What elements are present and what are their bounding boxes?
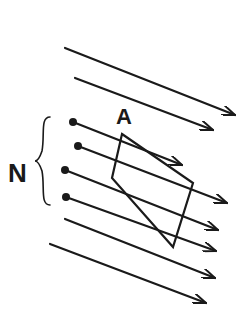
area-label: A [116,106,132,128]
line-origin-dot [62,193,70,201]
field-line-arrow [65,170,218,230]
line-origin-dot [74,142,82,150]
line-origin-dot [61,166,69,174]
field-line-arrow [66,197,216,251]
area-parallelogram [112,134,193,247]
count-label: N [8,160,27,186]
flux-diagram [0,0,245,310]
field-line-arrow [65,219,215,278]
line-origin-dot [69,118,77,126]
field-line-arrow [75,78,213,130]
field-line-arrow [65,48,235,115]
field-lines-group [50,48,235,303]
field-line-arrow [50,244,206,303]
curly-brace-icon [35,117,50,205]
